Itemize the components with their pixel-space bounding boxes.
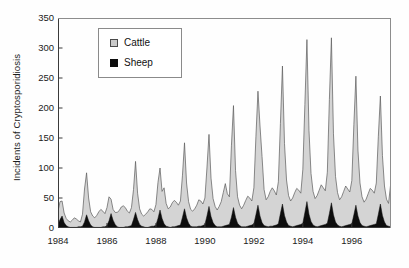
legend-label-sheep: Sheep [124, 57, 153, 68]
cattle-swatch-icon [110, 39, 118, 47]
x-tick-label: 1994 [283, 236, 323, 246]
y-tick-label: 200 [38, 103, 54, 113]
y-axis-tick-marks [59, 18, 63, 228]
y-axis-title: Incidents of Cryptosporidiosis [11, 8, 22, 228]
x-tick-label: 1990 [185, 236, 225, 246]
y-tick-label: 150 [38, 133, 54, 143]
sheep-swatch-icon [110, 59, 118, 67]
x-tick-label: 1992 [234, 236, 274, 246]
x-tick-label: 1984 [38, 236, 78, 246]
x-tick-label: 1986 [87, 236, 127, 246]
x-tick-label: 1996 [332, 236, 372, 246]
chart-legend: Cattle Sheep [98, 28, 182, 78]
y-tick-label: 50 [43, 193, 54, 203]
y-tick-label: 0 [49, 223, 54, 233]
legend-item-sheep: Sheep [110, 57, 153, 68]
chart-figure: Incidents of Cryptosporidiosis 050100150… [0, 0, 409, 268]
legend-item-cattle: Cattle [110, 37, 150, 48]
legend-label-cattle: Cattle [124, 37, 150, 48]
y-tick-label: 250 [38, 73, 54, 83]
y-tick-label: 100 [38, 163, 54, 173]
y-tick-label: 300 [38, 43, 54, 53]
x-tick-label: 1988 [136, 236, 176, 246]
y-tick-label: 350 [38, 13, 54, 23]
